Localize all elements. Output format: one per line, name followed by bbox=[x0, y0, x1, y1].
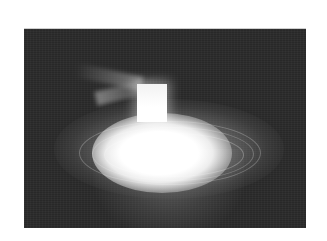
page bbox=[0, 0, 327, 241]
glowing-block bbox=[137, 84, 167, 122]
plasma-glow-photo bbox=[24, 28, 306, 228]
bright-core bbox=[92, 113, 232, 193]
